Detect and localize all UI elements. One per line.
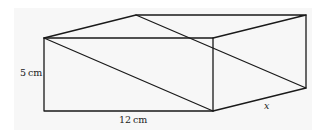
length-label: 12 cm [119,114,147,125]
plane-diagonal [136,15,306,88]
height-label: 5 cm [20,67,42,78]
top-face-edges [44,15,306,38]
depth-label: x [264,100,269,111]
front-diagonal [44,38,213,111]
right-face-edges [213,15,306,111]
cuboid-diagram [0,0,323,133]
